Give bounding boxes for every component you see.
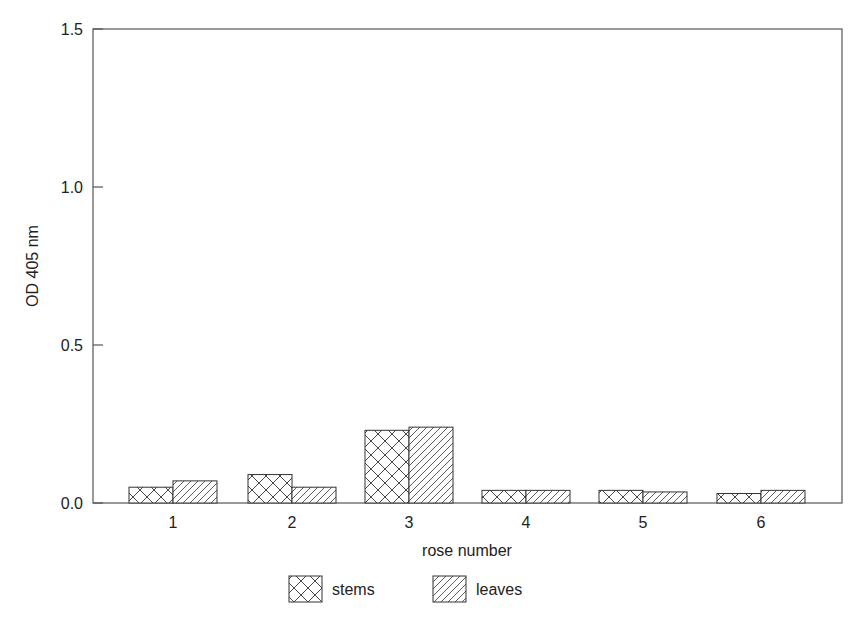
legend-swatch [289, 576, 322, 602]
legend-item-stems: stems [289, 576, 375, 602]
bar-leaves [173, 481, 217, 503]
bar-stems [717, 494, 761, 503]
bar-leaves [409, 427, 453, 503]
bar-stems [482, 490, 526, 503]
bar-stems [248, 475, 292, 503]
bar-stems [599, 490, 643, 503]
plot-frame [93, 29, 842, 503]
y-tick-label: 1.5 [61, 21, 83, 38]
x-tick-label: 1 [169, 514, 178, 531]
y-tick-label: 0.5 [61, 337, 83, 354]
x-tick-label: 2 [288, 514, 297, 531]
legend-swatch [433, 576, 466, 602]
x-tick-label: 5 [639, 514, 648, 531]
bar-stems [129, 487, 173, 503]
legend-label: stems [332, 581, 375, 598]
x-axis-label: rose number [422, 542, 512, 559]
bar-stems [365, 430, 409, 503]
bar-leaves [292, 487, 336, 503]
bar-leaves [526, 490, 570, 503]
legend-item-leaves: leaves [433, 576, 522, 602]
y-axis-label: OD 405 nm [24, 225, 41, 307]
legend: stemsleaves [289, 576, 522, 602]
bar-leaves [643, 492, 687, 503]
y-axis: 0.00.51.01.5 [61, 21, 103, 512]
bar-leaves [761, 490, 805, 503]
x-tick-label: 6 [757, 514, 766, 531]
x-axis: 123456 [169, 514, 766, 531]
x-tick-label: 4 [522, 514, 531, 531]
x-tick-label: 3 [405, 514, 414, 531]
bars [129, 427, 805, 503]
legend-label: leaves [476, 581, 522, 598]
bar-chart: 0.00.51.01.5 123456 OD 405 nm rose numbe… [0, 0, 859, 619]
y-tick-label: 1.0 [61, 179, 83, 196]
y-tick-label: 0.0 [61, 495, 83, 512]
